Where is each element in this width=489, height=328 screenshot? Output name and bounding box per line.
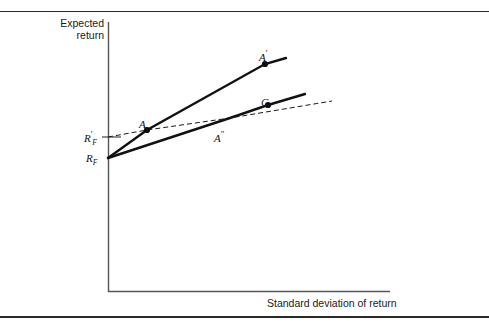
tick-label-rf-sub: F <box>93 158 98 167</box>
point-label-a-text: A <box>139 118 146 130</box>
solid-line-c <box>108 94 305 158</box>
tick-label-rf-base: R <box>86 152 93 164</box>
y-axis-label: Expected return <box>44 17 104 41</box>
tick-label-rf-prime: R'F <box>84 129 97 147</box>
point-label-a: A <box>139 118 146 130</box>
point-label-a-prime-mark: ' <box>266 48 268 58</box>
point-label-c-text: C <box>261 96 268 108</box>
tick-label-rf: RF <box>86 152 97 167</box>
point-label-c: C <box>261 96 268 108</box>
point-label-a-double-prime-mark: " <box>221 129 225 139</box>
tick-label-rf-prime-sub: F <box>92 138 97 147</box>
point-label-a-double-prime-base: A <box>214 132 221 144</box>
point-label-a-prime: A' <box>259 48 267 63</box>
figure-container: Expected return Standard deviation of re… <box>0 0 489 328</box>
point-label-a-prime-base: A <box>259 51 266 63</box>
point-label-a-double-prime: A" <box>214 129 224 144</box>
plot-area <box>0 0 489 328</box>
tick-label-rf-prime-base: R <box>84 132 91 144</box>
x-axis-label: Standard deviation of return <box>267 297 397 309</box>
